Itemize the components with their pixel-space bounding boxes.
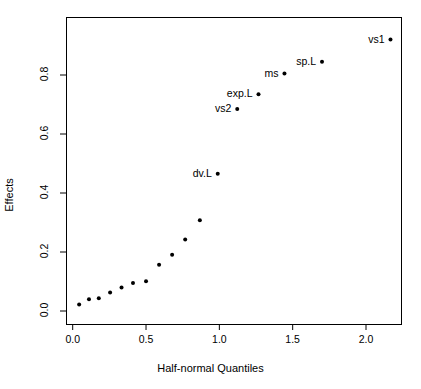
data-point <box>144 279 148 283</box>
y-tick-label: 0.2 <box>38 239 50 263</box>
y-tick-label: 0.6 <box>38 121 50 145</box>
y-tick-label: 0.0 <box>38 298 50 322</box>
plot-frame <box>67 18 402 325</box>
data-point <box>282 72 286 76</box>
y-tick-label: 0.4 <box>38 180 50 204</box>
y-axis-title: Effects <box>0 0 18 389</box>
data-point <box>388 38 392 42</box>
point-label: vs1 <box>314 33 384 45</box>
data-point <box>170 253 174 257</box>
data-point <box>77 303 81 307</box>
point-label: dv.L <box>142 167 212 179</box>
data-point <box>108 290 112 294</box>
x-tick-label: 1.5 <box>273 333 313 345</box>
point-label: vs2 <box>161 102 231 114</box>
x-tick-label: 0.0 <box>53 333 93 345</box>
data-point <box>120 285 124 289</box>
point-label: exp.L <box>183 87 253 99</box>
point-label: ms <box>208 67 278 79</box>
point-label: sp.L <box>246 55 316 67</box>
data-point <box>320 60 324 64</box>
plot-canvas <box>0 0 421 389</box>
data-point <box>87 297 91 301</box>
data-point <box>235 107 239 111</box>
data-point <box>131 281 135 285</box>
half-normal-plot-figure: Effects Half-normal Quantiles 0.00.51.01… <box>0 0 421 389</box>
x-axis-title: Half-normal Quantiles <box>0 362 421 374</box>
x-tick-label: 0.5 <box>126 333 166 345</box>
y-tick-label: 0.8 <box>38 62 50 86</box>
x-tick-label: 1.0 <box>199 333 239 345</box>
x-tick-label: 2.0 <box>346 333 386 345</box>
y-axis-title-text: Effects <box>3 178 15 211</box>
data-point <box>157 263 161 267</box>
data-point <box>97 296 101 300</box>
data-point <box>216 172 220 176</box>
data-point <box>198 218 202 222</box>
data-point <box>183 238 187 242</box>
data-point <box>257 92 261 96</box>
